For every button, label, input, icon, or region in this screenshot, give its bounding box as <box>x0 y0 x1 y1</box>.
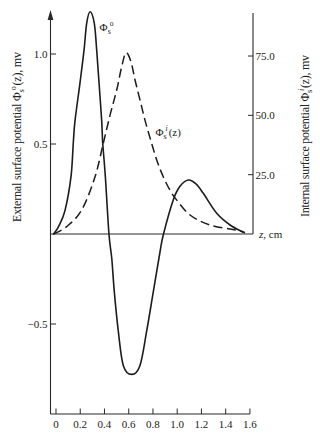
x-ticks: 00.20.40.60.81.01.21.41.6 <box>53 409 257 431</box>
annotation-internal-potential: Φsi(z) <box>155 124 181 141</box>
annotation-symbol: Φ <box>155 126 163 138</box>
y-axis-label-text: External surface potential <box>10 101 24 222</box>
y-axis-label-superscript: o <box>9 86 18 90</box>
annotation-external-potential: Φso <box>100 19 114 36</box>
y-tick-label-left: 1.0 <box>34 48 48 60</box>
y-tick-label-right: 75.0 <box>256 50 276 62</box>
series-external-potential-solid <box>54 12 244 375</box>
y2-axis-label-superscript: i <box>297 89 306 91</box>
x-axis-label: z, cm <box>258 228 283 240</box>
x-tick-label: 0.6 <box>122 418 136 430</box>
y-axis-label-tail: (z), mv <box>10 52 24 85</box>
series <box>54 12 245 375</box>
annotation-tail: (z) <box>169 126 182 139</box>
figure: 00.20.40.60.81.01.21.41.6 −0.50.51.0 25.… <box>0 0 320 440</box>
y-tick-label-right: 25.0 <box>256 169 276 181</box>
x-tick-label: 0 <box>53 418 59 430</box>
axes <box>48 10 253 414</box>
y-ticks-right: 25.050.075.0 <box>248 50 275 181</box>
y-axis-label-right: Internal surface potential Φsi(z), mv <box>297 55 314 217</box>
arrow-up-icon <box>48 10 54 20</box>
y-tick-label-right: 50.0 <box>256 109 276 121</box>
x-tick-label: 0.2 <box>73 418 87 430</box>
annotation-superscript: o <box>110 19 114 28</box>
x-tick-label: 0.8 <box>146 418 160 430</box>
y-axis-label-left: External surface potential Φso(z), mv <box>9 52 26 222</box>
annotation-subscript: s <box>163 132 166 141</box>
y-tick-label-left: −0.5 <box>28 318 48 330</box>
annotation-superscript: i <box>166 124 168 133</box>
series-internal-potential-dashed <box>54 53 245 234</box>
y2-axis-label-tail: (z), mv <box>298 55 312 88</box>
y-ticks-left: −0.50.51.0 <box>28 48 56 330</box>
x-tick-label: 1.0 <box>170 418 184 430</box>
y2-axis-label-text: Internal surface potential <box>298 101 312 217</box>
x-axis-label-unit: , cm <box>263 228 282 240</box>
y-tick-label-left: 0.5 <box>34 138 48 150</box>
x-tick-label: 1.6 <box>243 418 257 430</box>
x-tick-label: 1.2 <box>195 418 209 430</box>
x-tick-label: 0.4 <box>98 418 112 430</box>
annotation-symbol: Φ <box>100 21 108 33</box>
chart: 00.20.40.60.81.01.21.41.6 −0.50.51.0 25.… <box>0 0 320 440</box>
annotation-subscript: s <box>108 27 111 36</box>
x-tick-label: 1.4 <box>219 418 233 430</box>
